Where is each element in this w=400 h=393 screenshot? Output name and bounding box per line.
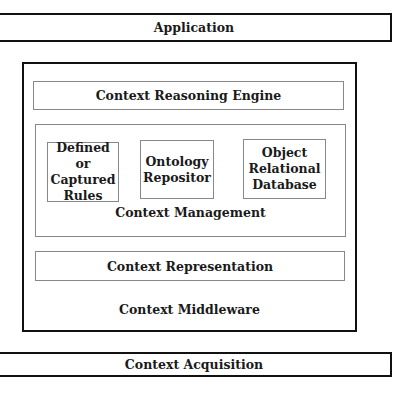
database-line-3: Database bbox=[252, 177, 317, 193]
ontology-line-2: Repositor bbox=[143, 170, 211, 186]
context-management-label: Context Management bbox=[35, 205, 346, 220]
rules-line-1: Defined or bbox=[48, 140, 118, 172]
database-line-2: Relational bbox=[249, 161, 321, 177]
context-middleware-label: Context Middleware bbox=[22, 302, 357, 317]
application-layer: Application bbox=[0, 13, 392, 42]
application-label: Application bbox=[154, 20, 234, 35]
context-acquisition-label: Context Acquisition bbox=[125, 357, 263, 372]
ontology-line-1: Ontology bbox=[145, 154, 208, 170]
ontology-repository-box: Ontology Repositor bbox=[140, 140, 214, 199]
context-representation-box: Context Representation bbox=[35, 251, 345, 281]
context-acquisition-layer: Context Acquisition bbox=[0, 352, 392, 377]
object-relational-database-box: Object Relational Database bbox=[243, 139, 326, 199]
context-reasoning-engine-box: Context Reasoning Engine bbox=[33, 81, 344, 110]
rules-box: Defined or Captured Rules bbox=[47, 142, 119, 202]
rules-line-2: Captured bbox=[51, 172, 116, 188]
database-line-1: Object bbox=[262, 145, 308, 161]
rules-line-3: Rules bbox=[63, 188, 102, 204]
context-reasoning-engine-label: Context Reasoning Engine bbox=[96, 88, 282, 103]
context-representation-label: Context Representation bbox=[107, 259, 273, 274]
